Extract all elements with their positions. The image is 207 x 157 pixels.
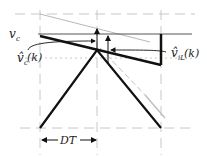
dt-label: DT	[59, 134, 78, 147]
vc-hat-label: v̂	[17, 51, 24, 65]
vc-label-sub: c	[16, 35, 20, 43]
ghost-slope-line	[40, 14, 150, 42]
vc-hat-label-arg: (k)	[27, 51, 42, 64]
vil-hat-leader-arrow	[111, 50, 166, 52]
vil-hat-label-arg: (k)	[184, 47, 199, 60]
vc-label: v	[9, 27, 16, 41]
ghost-diagonal-line-2	[145, 95, 165, 118]
vil-hat-label: v̂	[171, 46, 178, 60]
guide-lines	[15, 10, 195, 155]
pwm-sampling-diagram: v c v̂ c (k) v̂ iL (k) DT	[0, 0, 207, 157]
